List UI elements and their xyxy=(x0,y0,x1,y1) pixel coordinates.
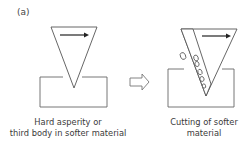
left-caption-line2: third body in softer material xyxy=(4,128,132,139)
transition-arrow-icon xyxy=(130,74,149,90)
ejected-chip-icon xyxy=(179,52,187,61)
hard-asperity-triangle xyxy=(51,27,97,88)
left-caption: Hard asperity or third body in softer ma… xyxy=(4,117,132,139)
left-stage xyxy=(40,27,107,107)
right-caption-line1: Cutting of softer xyxy=(160,117,247,128)
right-caption-line2: material xyxy=(160,128,247,139)
right-stage xyxy=(168,29,237,107)
right-caption: Cutting of softer material xyxy=(160,117,247,139)
left-caption-line1: Hard asperity or xyxy=(4,117,132,128)
